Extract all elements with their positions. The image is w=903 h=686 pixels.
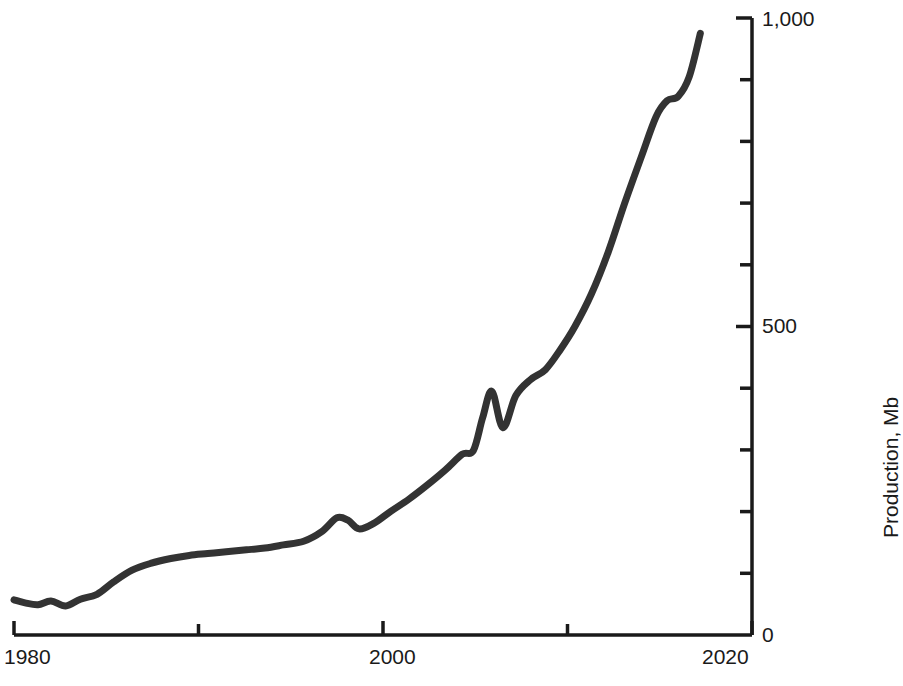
axis-lines xyxy=(14,18,752,635)
production-data-line xyxy=(14,33,700,606)
x-tick-label-1980: 1980 xyxy=(4,646,51,667)
x-tick-label-2000: 2000 xyxy=(369,646,416,667)
y-tick-label-0: 0 xyxy=(762,624,774,645)
caption-fragment xyxy=(0,672,883,686)
x-tick-label-2020: 2020 xyxy=(702,646,749,667)
y-axis-title: Production, Mb xyxy=(879,398,903,538)
y-axis-ticks xyxy=(736,18,752,573)
y-tick-label-1000: 1,000 xyxy=(762,8,815,29)
x-axis-ticks xyxy=(14,621,752,635)
y-tick-label-500: 500 xyxy=(762,315,797,336)
